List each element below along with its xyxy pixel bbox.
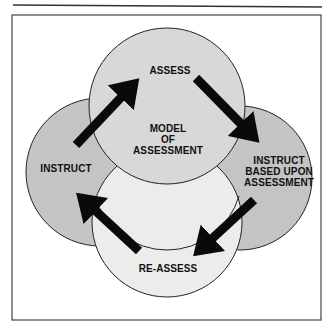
- node-label-re-assess: RE-ASSESS: [130, 263, 206, 274]
- center-label-line-2: OF: [130, 134, 206, 145]
- instruct-based-line-2: BASED UPON: [236, 166, 322, 177]
- instruct-based-line-1: INSTRUCT: [236, 155, 322, 166]
- node-label-instruct: INSTRUCT: [36, 163, 96, 174]
- center-label: MODEL OF ASSESSMENT: [130, 123, 206, 156]
- top-rule: [13, 5, 322, 7]
- node-label-assess: ASSESS: [140, 65, 200, 76]
- center-label-line-3: ASSESSMENT: [130, 145, 206, 156]
- instruct-based-line-3: ASSESSMENT: [236, 177, 322, 188]
- center-label-line-1: MODEL: [130, 123, 206, 134]
- node-label-instruct-based: INSTRUCT BASED UPON ASSESSMENT: [236, 155, 322, 188]
